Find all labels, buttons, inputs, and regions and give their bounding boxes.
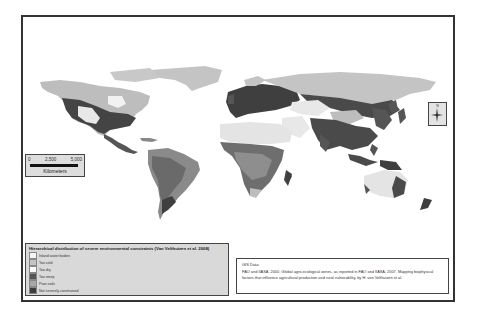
scale-ticks: 0 2,500 5,000	[28, 157, 82, 162]
north-arrow: N	[428, 102, 447, 126]
legend-swatch	[29, 259, 37, 266]
north-africa	[220, 122, 292, 144]
legend-label: Too dry	[39, 268, 51, 272]
legend-label: Not severely constrained	[39, 289, 79, 293]
greenland	[150, 66, 222, 91]
legend-item: Too cold	[29, 259, 225, 266]
legend-item: Not severely constrained	[29, 287, 225, 294]
citation-heading: GIS Data:	[242, 262, 443, 267]
legend-label: Poor soils	[39, 282, 55, 286]
scale-tick: 0	[28, 157, 31, 162]
legend-label: Too steep	[39, 275, 55, 279]
scale-bar-line	[30, 164, 78, 167]
scale-unit: Kilometers	[26, 168, 84, 174]
legend-item: Too steep	[29, 273, 225, 280]
legend-swatch	[29, 252, 37, 259]
citation-text: FAO and IIASA. 2000. Global agro-ecologi…	[242, 269, 443, 280]
central-america	[104, 134, 138, 154]
scale-tick: 5,000	[71, 157, 82, 162]
legend-swatch	[29, 266, 37, 273]
legend-swatch	[29, 273, 37, 280]
scale-bar: 0 2,500 5,000 Kilometers	[25, 154, 85, 177]
legend-item: Inland water bodies	[29, 252, 225, 259]
legend-swatch	[29, 287, 37, 294]
legend-item: Too dry	[29, 266, 225, 273]
legend-label: Too cold	[39, 261, 52, 265]
compass-icon	[429, 105, 445, 125]
scale-tick: 2,500	[45, 157, 56, 162]
citation-box: GIS Data: FAO and IIASA. 2000. Global ag…	[236, 258, 449, 294]
legend-swatch	[29, 280, 37, 287]
legend-title: Hierarchical distribution of severe envi…	[29, 246, 225, 251]
legend-label: Inland water bodies	[39, 254, 70, 258]
legend-item: Poor soils	[29, 280, 225, 287]
map-legend: Hierarchical distribution of severe envi…	[25, 243, 229, 296]
